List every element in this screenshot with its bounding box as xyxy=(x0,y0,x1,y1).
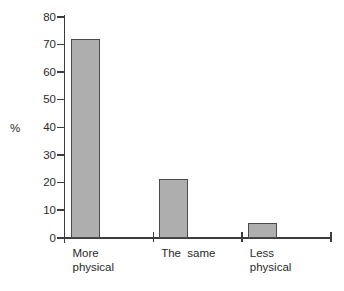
category-label-the-same: The same xyxy=(161,247,215,261)
y-tick-label-80: 80 xyxy=(24,10,56,24)
x-tick-2 xyxy=(241,232,243,242)
y-tick-label-40: 40 xyxy=(24,120,56,134)
x-axis xyxy=(64,237,332,239)
y-tick-50 xyxy=(57,99,64,101)
y-tick-0 xyxy=(57,237,64,239)
y-tick-label-0: 0 xyxy=(24,231,56,245)
y-tick-label-70: 70 xyxy=(24,37,56,51)
y-axis xyxy=(64,15,66,243)
y-tick-60 xyxy=(57,71,64,73)
y-tick-80 xyxy=(57,16,64,18)
y-tick-40 xyxy=(57,127,64,129)
x-tick-1 xyxy=(153,232,155,242)
y-tick-label-20: 20 xyxy=(24,175,56,189)
bar-less-physical xyxy=(248,223,277,238)
y-tick-20 xyxy=(57,182,64,184)
bar-more-physical xyxy=(71,39,100,238)
x-tick-3 xyxy=(330,232,332,242)
y-tick-label-50: 50 xyxy=(24,92,56,106)
category-label-less-physical: Less physical xyxy=(250,247,292,274)
y-tick-70 xyxy=(57,44,64,46)
y-tick-label-10: 10 xyxy=(24,203,56,217)
y-tick-30 xyxy=(57,154,64,156)
bar-chart-figure: % 01020304050607080More physicalThe same… xyxy=(0,0,344,291)
bar-the-same xyxy=(159,179,188,238)
y-tick-label-60: 60 xyxy=(24,65,56,79)
y-tick-label-30: 30 xyxy=(24,148,56,162)
category-label-more-physical: More physical xyxy=(73,247,115,274)
y-tick-10 xyxy=(57,209,64,211)
